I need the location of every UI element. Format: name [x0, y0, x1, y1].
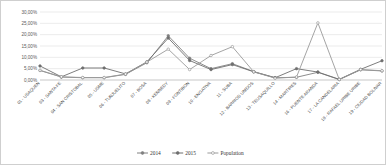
y-axis-tick-label: 30,00%: [21, 10, 37, 15]
legend-marker: [176, 152, 179, 155]
data-point-marker: [295, 76, 298, 79]
x-axis-tick-label: 18 - RAFAEL URIBE URIBE: [320, 81, 362, 123]
data-point-marker: [381, 59, 384, 62]
data-point-marker: [188, 68, 191, 71]
data-point-marker: [274, 77, 277, 80]
y-axis-tick-label: 5,00%: [24, 66, 37, 71]
legend-item-label[interactable]: 2014: [150, 150, 161, 156]
data-point-marker: [39, 69, 42, 72]
data-point-marker: [188, 59, 191, 62]
data-point-marker: [39, 65, 42, 68]
legend-marker: [141, 152, 144, 155]
x-axis-tick-label: 10 - ENGATIVA: [187, 81, 212, 106]
y-axis-tick-label: 25,00%: [21, 21, 37, 26]
data-point-marker: [338, 78, 341, 81]
chart-plot-area: 0,00%5,00%10,00%15,00%20,00%25,00%30,00%…: [1, 1, 387, 166]
data-point-marker: [231, 45, 234, 48]
data-point-marker: [317, 71, 320, 74]
data-point-marker: [359, 68, 362, 71]
y-axis-tick-label: 20,00%: [21, 32, 37, 37]
data-point-marker: [82, 76, 85, 79]
y-axis-tick-label: 15,00%: [21, 44, 37, 49]
data-point-marker: [210, 54, 213, 57]
series-line: [40, 38, 382, 79]
data-point-marker: [124, 73, 127, 76]
data-point-marker: [231, 63, 234, 66]
y-axis-tick-label: 10,00%: [21, 55, 37, 60]
legend-item-label[interactable]: 2015: [185, 150, 196, 156]
data-point-marker: [146, 61, 149, 64]
data-point-marker: [317, 22, 320, 25]
x-axis-tick-label: 11 - SUBA: [215, 81, 233, 99]
data-point-marker: [103, 76, 106, 79]
chart-legend: 20142015Population: [137, 150, 244, 156]
x-axis-tick-label: 07 - BOSA: [130, 81, 148, 99]
data-point-marker: [210, 68, 213, 71]
line-chart: 0,00%5,00%10,00%15,00%20,00%25,00%30,00%…: [1, 1, 387, 166]
data-point-marker: [167, 37, 170, 40]
legend-item-label[interactable]: Population: [220, 150, 244, 156]
data-point-marker: [103, 67, 106, 70]
data-point-marker: [167, 48, 170, 51]
x-axis-tick-label: 05 - USME: [86, 81, 104, 99]
data-point-marker: [253, 71, 256, 74]
chart-container: 0,00%5,00%10,00%15,00%20,00%25,00%30,00%…: [0, 0, 386, 165]
data-point-marker: [60, 76, 63, 79]
data-point-marker: [82, 67, 85, 70]
data-point-marker: [381, 69, 384, 72]
data-point-marker: [295, 67, 298, 70]
legend-marker: [212, 152, 215, 155]
